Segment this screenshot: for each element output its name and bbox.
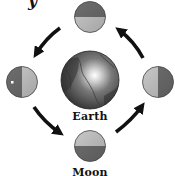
diagram-canvas	[0, 0, 175, 176]
cutoff-title-glyph: y	[28, 0, 37, 10]
earth-label: Earth	[60, 110, 120, 123]
arrow-top-to-left	[36, 28, 60, 54]
arrow-left-to-bottom	[34, 107, 60, 133]
arrow-right-to-top	[119, 30, 143, 58]
moon-right	[142, 66, 174, 98]
moon-bottom	[74, 130, 106, 162]
moon-label: Moon	[60, 166, 120, 176]
earth-globe-icon	[61, 51, 119, 109]
moon-left	[6, 66, 38, 98]
moon-marker-dot	[11, 81, 14, 84]
moon-orbit-diagram: y	[0, 0, 175, 176]
moon-top	[74, 1, 106, 33]
